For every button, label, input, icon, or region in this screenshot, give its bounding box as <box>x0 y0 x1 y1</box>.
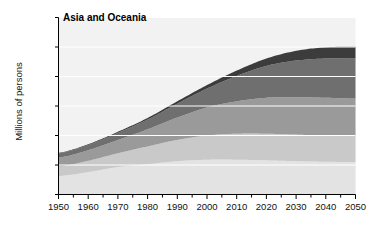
x-axis-ticks: 1950196019701980199020002010202020302040… <box>0 0 370 225</box>
x-tick-label-1960: 1960 <box>72 201 104 212</box>
x-tick-label-1990: 1990 <box>161 201 193 212</box>
x-tick-label-2040: 2040 <box>310 201 342 212</box>
x-tick-label-1970: 1970 <box>102 201 134 212</box>
panel-title: Asia and Oceania <box>63 12 146 23</box>
x-tick-label-2050: 2050 <box>340 201 370 212</box>
x-tick-label-2020: 2020 <box>250 201 282 212</box>
x-tick-label-2000: 2000 <box>191 201 223 212</box>
x-tick-label-2010: 2010 <box>221 201 253 212</box>
x-tick-label-1950: 1950 <box>43 201 75 212</box>
chart-figure: 01,0002,0003,0004,0005,0006,000 19501960… <box>0 0 370 225</box>
x-tick-label-1980: 1980 <box>132 201 164 212</box>
x-tick-label-2030: 2030 <box>280 201 312 212</box>
y-axis-label: Millions of persons <box>13 37 24 167</box>
